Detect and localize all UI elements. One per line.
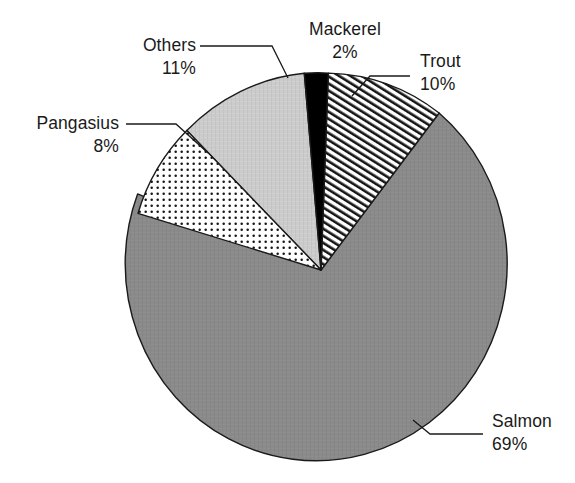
label-trout-name: Trout — [420, 51, 461, 71]
leader-line-others — [200, 46, 288, 78]
label-salmon-percent: 69% — [492, 434, 527, 454]
label-trout-percent: 10% — [420, 74, 455, 94]
label-others-percent: 11% — [162, 58, 196, 78]
label-mackerel-percent: 2% — [332, 42, 358, 62]
label-pangasius-percent: 8% — [94, 136, 120, 156]
pie-chart-figure: Others 11% Mackerel 2% Trout 10% Pangasi… — [0, 0, 575, 483]
label-mackerel-name: Mackerel — [309, 19, 381, 39]
pie-chart-canvas: Others 11% Mackerel 2% Trout 10% Pangasi… — [0, 0, 575, 483]
label-salmon-name: Salmon — [492, 411, 552, 431]
label-pangasius-name: Pangasius — [36, 113, 119, 133]
label-others-name: Others — [143, 35, 196, 55]
